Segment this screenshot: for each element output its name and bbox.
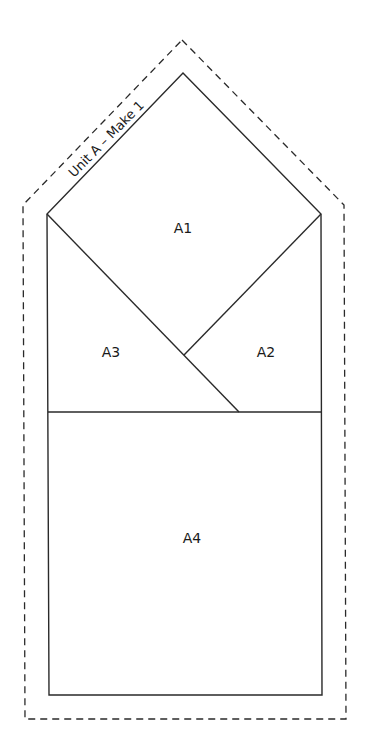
piece-label-a1: A1 — [174, 220, 192, 236]
piece-label-a4: A4 — [183, 530, 202, 546]
piece-label-a2: A2 — [257, 344, 275, 360]
seam-line-a1-a3 — [47, 214, 239, 412]
seam-line-a1-a2 — [184, 214, 321, 355]
unit-label: Unit A – Make 1 — [65, 98, 146, 180]
seam-allowance-outline — [23, 40, 346, 719]
pattern-diagram: Unit A – Make 1 A1 A2 A3 A4 — [0, 0, 365, 753]
piece-label-a3: A3 — [102, 344, 120, 360]
